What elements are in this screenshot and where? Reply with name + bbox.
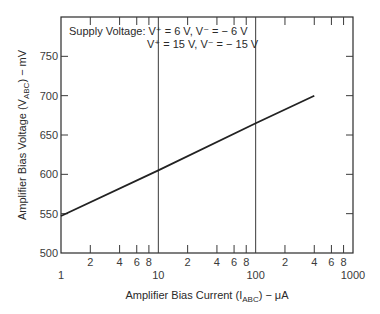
x-minor-tick-label: 8 <box>341 256 347 268</box>
x-major-tick-label: 1 <box>58 269 64 281</box>
x-minor-tick-label: 8 <box>243 256 249 268</box>
x-major-tick-label: 1000 <box>341 269 365 281</box>
y-tick-label: 550 <box>40 208 58 220</box>
plot-frame <box>61 17 353 253</box>
x-major-tick-label: 100 <box>246 269 264 281</box>
x-minor-tick-label: 6 <box>231 256 237 268</box>
x-minor-tick-label: 4 <box>117 256 123 268</box>
x-axis-title-main: Amplifier Bias Current (I <box>125 289 242 301</box>
x-minor-tick-label: 6 <box>328 256 334 268</box>
x-minor-tick-label: 2 <box>282 256 288 268</box>
x-axis-title-sub: ABC <box>242 295 259 304</box>
y-axis-title-tail: ) − mV <box>16 49 28 82</box>
x-minor-tick-label: 2 <box>185 256 191 268</box>
supply-voltage-annotation-line1: Supply Voltage: V⁺ = 6 V, V⁻ = − 6 V <box>69 25 248 37</box>
y-tick-label: 700 <box>40 90 58 102</box>
x-minor-tick-label: 8 <box>146 256 152 268</box>
bias-voltage-chart: 1101001000246824682468500550600650700750… <box>0 0 380 314</box>
data-line <box>61 96 314 216</box>
x-minor-tick-label: 4 <box>311 256 317 268</box>
y-tick-label: 750 <box>40 50 58 62</box>
plot-area: 1101001000246824682468500550600650700750 <box>40 17 366 281</box>
y-tick-label: 500 <box>40 247 58 259</box>
x-minor-tick-label: 4 <box>214 256 220 268</box>
y-tick-label: 600 <box>40 168 58 180</box>
y-axis-title-main: Amplifier Bias Voltage (V <box>16 98 28 220</box>
supply-voltage-annotation-line2: V⁺ = 15 V, V⁻ = − 15 V <box>147 38 259 50</box>
y-axis-title-sub: ABC <box>22 82 31 99</box>
x-axis-title-tail: ) − μA <box>259 289 290 301</box>
y-tick-label: 650 <box>40 129 58 141</box>
x-minor-tick-label: 2 <box>87 256 93 268</box>
y-axis-title: Amplifier Bias Voltage (VABC) − mV <box>16 49 31 220</box>
x-axis-title: Amplifier Bias Current (IABC) − μA <box>125 289 289 304</box>
x-major-tick-label: 10 <box>152 269 164 281</box>
x-minor-tick-label: 6 <box>134 256 140 268</box>
